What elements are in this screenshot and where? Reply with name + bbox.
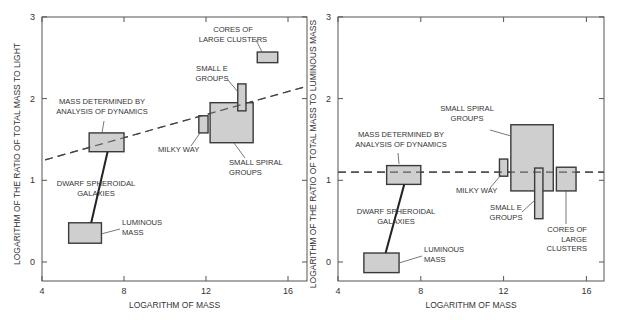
y-tick-label: 1 [326,175,331,185]
data-box [257,52,278,63]
y-tick-label: 3 [326,12,331,22]
data-box [511,125,553,191]
data-box [199,116,208,133]
annotation-leader-line [399,256,422,263]
annotation-leader-line [398,153,399,164]
y-tick-label: 3 [30,12,35,22]
x-tick-label: 12 [201,286,211,296]
annotation-label: SMALL EGROUPS [196,64,229,83]
x-tick-label: 8 [418,286,423,296]
annotation-label: DWARF SPHEROIDALGALAXIES [57,179,136,198]
annotation-label: SMALL SPIRALGROUPS [440,104,494,123]
x-tick-label: 4 [335,286,340,296]
annotation-label: CORES OFLARGECLUSTERS [546,225,587,253]
annotation-leader-line [522,200,535,212]
figure: 4812160123LOGARITHM OF MASSLOGARITHM OF … [0,0,619,320]
data-box [364,253,399,273]
data-box [69,223,102,243]
x-axis-label: LOGARITHM OF MASS [425,300,516,310]
x-tick-label: 12 [499,286,509,296]
panel-mass-to-light: 4812160123LOGARITHM OF MASSLOGARITHM OF … [12,12,307,310]
panel-mass-to-luminous-mass: 4812160123LOGARITHM OF MASSLOGARITHM OF … [308,12,604,310]
x-tick-label: 4 [39,286,44,296]
x-tick-label: 8 [121,286,126,296]
annotation-label: MASS DETERMINED BYANALYSIS OF DYNAMICS [355,130,446,149]
data-box [238,84,246,111]
y-tick-label: 2 [30,94,35,104]
data-box [89,133,124,152]
annotation-label: SMALL SPIRALGROUPS [229,158,283,177]
annotation-label: LUMINOUSMASS [424,245,464,264]
data-box [535,168,543,219]
annotation-label: DWARF SPHEROIDALGALAXIES [357,207,436,226]
y-axis-label: LOGARITHM OF THE RATIO OF TOTAL MASS TO … [308,20,318,289]
annotation-leader-line [228,80,238,92]
data-box [387,166,421,185]
x-tick-label: 16 [283,286,293,296]
data-box [499,159,507,176]
data-box [210,103,253,143]
x-tick-label: 16 [581,286,591,296]
annotation-label: MILKY WAY [158,145,199,154]
annotation-leader-line [101,229,120,234]
annotation-leader-line [234,143,245,158]
mass-ratio-charts: 4812160123LOGARITHM OF MASSLOGARITHM OF … [0,0,619,320]
annotation-leader-line [102,121,104,133]
annotation-leader-line [490,130,511,136]
annotation-label: SMALL EGROUPS [490,203,523,222]
annotation-label: CORES OFLARGE CLUSTERS [199,25,267,44]
x-axis-label: LOGARITHM OF MASS [129,300,220,310]
y-tick-label: 2 [326,94,331,104]
annotation-label: LUMINOUSMASS [122,218,162,237]
y-tick-label: 1 [30,175,35,185]
y-tick-label: 0 [326,257,331,267]
annotation-label: MASS DETERMINED BYANALYSIS OF DYNAMICS [56,97,147,116]
y-axis-label: LOGARITHM OF THE RATIO OF TOTAL MASS TO … [12,43,22,265]
y-tick-label: 0 [30,257,35,267]
data-box [556,167,576,191]
